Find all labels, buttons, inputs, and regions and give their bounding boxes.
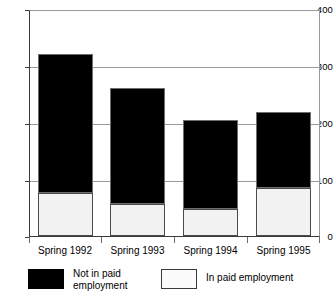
bar-segment-in-paid-employment[interactable]	[256, 188, 311, 236]
bar-segment-in-paid-employment[interactable]	[183, 209, 238, 236]
bar-spring-1993[interactable]	[110, 88, 165, 236]
x-tick-mark-2	[174, 237, 175, 243]
bar-segment-not-in-paid-employment[interactable]	[38, 54, 93, 192]
bar-spring-1992[interactable]	[38, 54, 93, 236]
legend-label-in-paid-employment: In paid employment	[206, 272, 293, 284]
bar-spring-1994[interactable]	[183, 120, 238, 236]
bar-segment-not-in-paid-employment[interactable]	[256, 112, 311, 188]
x-label-spring-1995: Spring 1995	[247, 245, 320, 257]
legend-swatch-black-icon	[28, 269, 64, 289]
bar-spring-1995[interactable]	[256, 112, 311, 236]
bar-segment-not-in-paid-employment[interactable]	[183, 120, 238, 209]
x-label-spring-1994: Spring 1994	[174, 245, 247, 257]
bar-segment-in-paid-employment[interactable]	[38, 193, 93, 236]
x-axis	[29, 237, 320, 244]
x-tick-mark-3	[247, 237, 248, 243]
x-label-spring-1993: Spring 1993	[101, 245, 174, 257]
legend-label-not-in-paid-employment: Not in paid employment	[73, 268, 127, 291]
plot-area	[29, 10, 320, 237]
bar-segment-in-paid-employment[interactable]	[110, 204, 165, 236]
legend-item-in-paid-employment[interactable]: In paid employment	[161, 268, 293, 289]
stacked-bar-chart: 400 300 200 100 0	[0, 0, 333, 305]
chart-legend: Not in paid employment In paid employmen…	[28, 268, 328, 300]
x-tick-mark-0	[29, 237, 30, 243]
x-tick-mark-4	[319, 237, 320, 243]
legend-item-not-in-paid-employment[interactable]: Not in paid employment	[28, 268, 127, 291]
x-tick-mark-1	[101, 237, 102, 243]
legend-swatch-white-icon	[161, 269, 197, 289]
x-label-spring-1992: Spring 1992	[29, 245, 101, 257]
bar-segment-not-in-paid-employment[interactable]	[110, 88, 165, 204]
